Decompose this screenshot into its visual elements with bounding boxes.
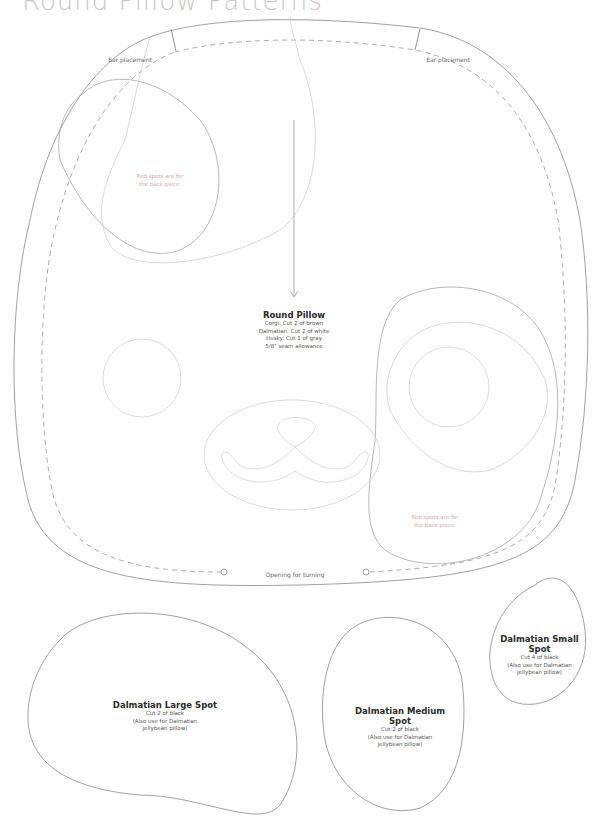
eye-patch-right xyxy=(387,322,548,472)
opening-marker-left xyxy=(221,569,227,575)
back-spot-note-left: Red spots are for the back piece. xyxy=(120,172,200,188)
opening-marker-right xyxy=(363,569,369,575)
round-pillow-label: Round Pillow Corgi: Cut 2 of brown Dalma… xyxy=(234,310,354,350)
pattern-drawing xyxy=(0,0,596,827)
ear-tick-right xyxy=(415,29,420,50)
small-spot-label: Dalmatian Small Spot Cut 4 of black (Als… xyxy=(492,634,587,677)
ear-placement-left: Ear placement xyxy=(100,56,160,63)
mouth xyxy=(222,447,369,482)
medium-spot-label: Dalmatian Medium Spot Cut 2 of black (Al… xyxy=(345,706,455,749)
eye-left xyxy=(103,339,181,417)
opening-label: Opening for turning xyxy=(245,571,345,578)
ear-placement-right: Ear placement xyxy=(418,56,478,63)
ear-overlay-left xyxy=(102,16,316,263)
round-pillow-title: Round Pillow xyxy=(234,310,354,320)
large-spot-label: Dalmatian Large Spot Cut 2 of black (Als… xyxy=(100,700,230,733)
nose xyxy=(278,418,316,448)
back-spot-left xyxy=(59,79,219,253)
back-spot-note-right: Red spots are for the back piece. xyxy=(395,513,475,529)
pillow-outline xyxy=(14,20,588,586)
eye-right xyxy=(409,347,489,427)
ear-tick-left xyxy=(171,29,176,51)
seam-line xyxy=(42,40,565,572)
